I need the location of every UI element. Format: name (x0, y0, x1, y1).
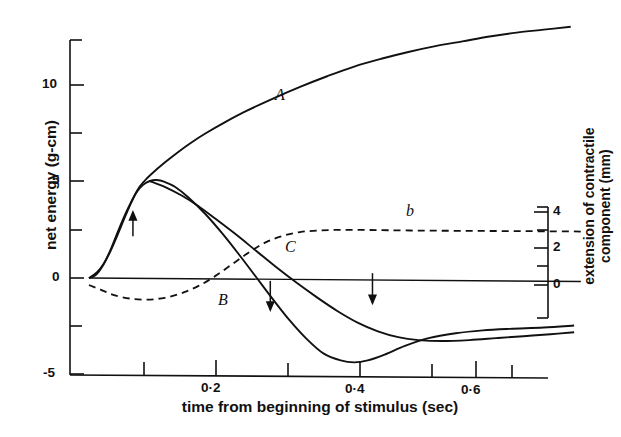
y-axis-title-right-line2: component (mm) (597, 149, 613, 263)
chart-canvas (0, 0, 621, 437)
right-tick-label-0: 0 (553, 276, 561, 291)
curve-label-b-dashed: b (406, 202, 414, 220)
x-tick-label-0p6: 0·6 (461, 382, 481, 397)
curve-a (89, 27, 571, 278)
y-axis-title-right: extension of contractile component (mm) (581, 106, 613, 306)
curve-label-c: C (285, 238, 296, 256)
curve-b-total (89, 180, 574, 362)
right-tick-label-2: 2 (553, 239, 561, 254)
x-tick-label-0p4: 0·4 (345, 381, 365, 396)
curve-label-b-total: B (218, 291, 228, 309)
right-axis (534, 207, 548, 318)
left-tick-label-10: 10 (42, 76, 57, 91)
left-tick-label-minus5: -5 (43, 365, 55, 380)
curve-c (150, 181, 574, 341)
arrow-down-2-head (369, 295, 376, 303)
curve-b-dashed (89, 230, 581, 300)
annotation-arrows (130, 212, 376, 310)
left-axis (70, 40, 84, 375)
y-axis-title-right-line1: extension of contractile (581, 128, 597, 285)
figure-container: 10 5 0 -5 0·2 0·4 0·6 4 2 0 A B C b net … (0, 0, 621, 437)
curve-label-a: A (275, 86, 285, 104)
curve-zero-line (89, 278, 581, 281)
y-axis-title-left: net energy (g-cm) (42, 90, 60, 280)
right-tick-label-4: 4 (553, 203, 561, 218)
data-curves (89, 27, 581, 363)
arrow-down-1-head (267, 302, 274, 310)
x-axis-title: time from beginning of stimulus (sec) (120, 398, 520, 416)
arrow-up-1-head (130, 212, 137, 220)
bottom-axis (70, 360, 548, 378)
x-tick-label-0p2: 0·2 (201, 380, 221, 395)
